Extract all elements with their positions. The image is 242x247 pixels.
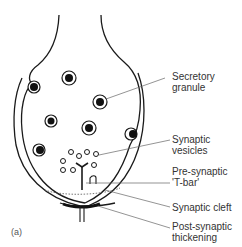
post-synaptic-thickening xyxy=(63,204,100,207)
synaptic-vesicles xyxy=(61,150,99,173)
label-pre-synaptic-t-bar: Pre-synaptic 'T-bar' xyxy=(172,166,228,188)
t-bar xyxy=(76,163,88,190)
secretory-granules xyxy=(28,71,137,156)
label-synaptic-vesicles: Synaptic vesicles xyxy=(172,134,210,156)
terminal-outline xyxy=(14,15,144,206)
label-synaptic-cleft: Synaptic cleft xyxy=(172,202,231,213)
label-secretory-granule: Secretory granule xyxy=(172,71,215,93)
panel-label: (a) xyxy=(11,227,22,237)
label-post-synaptic-thickening: Post-synaptic thickening xyxy=(172,221,232,243)
